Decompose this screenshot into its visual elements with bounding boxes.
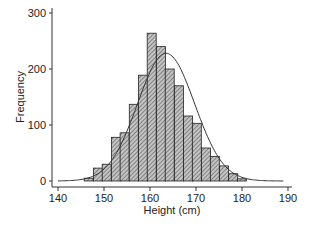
x-tick-label: 150 bbox=[95, 192, 113, 204]
x-axis-title: Height (cm) bbox=[144, 204, 201, 216]
y-tick-label: 100 bbox=[28, 119, 46, 131]
histogram-bar bbox=[174, 86, 183, 181]
histogram-bar bbox=[120, 133, 129, 181]
histogram-bars bbox=[84, 33, 246, 181]
histogram-bar bbox=[93, 168, 102, 181]
x-tick-label: 140 bbox=[49, 192, 67, 204]
y-axis-title: Frequency bbox=[14, 71, 26, 123]
histogram-chart: 0100200300140150160170180190 Height (cm)… bbox=[0, 0, 311, 230]
histogram-bar bbox=[165, 69, 174, 181]
x-tick-label: 180 bbox=[233, 192, 251, 204]
histogram-bar bbox=[192, 123, 201, 181]
x-tick-label: 160 bbox=[141, 192, 159, 204]
histogram-bar bbox=[156, 47, 165, 181]
y-tick-label: 200 bbox=[28, 63, 46, 75]
histogram-bar bbox=[129, 104, 138, 181]
y-tick-label: 300 bbox=[28, 7, 46, 19]
histogram-bar bbox=[210, 156, 219, 181]
histogram-bar bbox=[139, 75, 148, 181]
y-tick-label: 0 bbox=[40, 175, 46, 187]
histogram-bar bbox=[237, 179, 246, 181]
x-tick-label: 170 bbox=[187, 192, 205, 204]
histogram-bar bbox=[184, 116, 193, 181]
x-tick-label: 190 bbox=[279, 192, 297, 204]
histogram-bar bbox=[202, 148, 211, 181]
histogram-bar bbox=[147, 33, 156, 181]
